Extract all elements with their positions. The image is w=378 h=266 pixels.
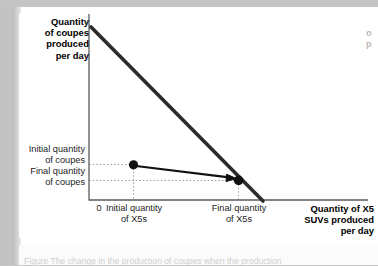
final-production-point — [234, 176, 244, 186]
arrow-shaft — [136, 166, 229, 177]
x-axis-title: Quantity of X5 SUVs produced per day — [286, 203, 374, 237]
initial-production-point — [129, 160, 138, 169]
chart-axes — [89, 14, 368, 201]
adjacent-figure-clipped-text: o p — [366, 28, 378, 50]
figure-caption: Figure The change in the production of c… — [24, 256, 364, 266]
movement-arrow — [136, 166, 237, 182]
y-tick-label-initial-coupes: Initial quantity of coupes — [17, 144, 85, 165]
x-tick-label-initial-x5s: Initial quantity of X5s — [95, 203, 173, 224]
frontier-line — [91, 27, 263, 201]
y-axis-title: Quantity of coupes produced per day — [22, 16, 89, 61]
y-tick-label-final-coupes: Final quantity of coupes — [17, 166, 85, 187]
x-tick-label-final-x5s: Final quantity of X5s — [200, 203, 278, 224]
